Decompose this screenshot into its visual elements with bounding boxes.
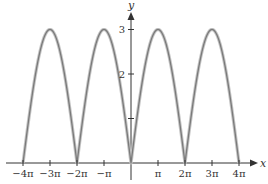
y-tick-label: 3 [119,24,125,35]
x-tick-label: −3π [39,168,61,179]
x-tick-label: −4π [12,168,34,179]
chart: −4π−3π−2π−ππ2π3π4π23 x y [0,0,268,184]
y-axis-arrow-icon [128,12,135,20]
x-tick-label: 2π [179,168,192,179]
x-tick-label: π [155,168,162,179]
x-axis-arrow-icon [250,160,258,167]
y-axis-label: y [127,0,135,12]
x-tick-label: −π [97,168,112,179]
x-tick-label: 3π [206,168,219,179]
x-axis-label: x [260,157,267,170]
y-tick-label: 2 [119,69,125,80]
x-tick-label: 4π [233,168,246,179]
x-tick-label: −2π [66,168,88,179]
